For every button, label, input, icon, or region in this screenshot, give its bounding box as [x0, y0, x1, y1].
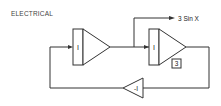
integrator-2-label: I [153, 44, 155, 51]
circuit-diagram: I I -I 3 3 Sin X [0, 0, 221, 106]
arrow-into-int1 [68, 45, 73, 49]
inverter-label: -I [134, 85, 138, 92]
inverter-block [123, 78, 143, 98]
arrow-into-int2 [144, 45, 149, 49]
gain-box-label: 3 [175, 60, 179, 67]
arrow-output [169, 16, 175, 20]
integrator-1-label: I [77, 44, 79, 51]
output-label: 3 Sin X [178, 15, 200, 22]
